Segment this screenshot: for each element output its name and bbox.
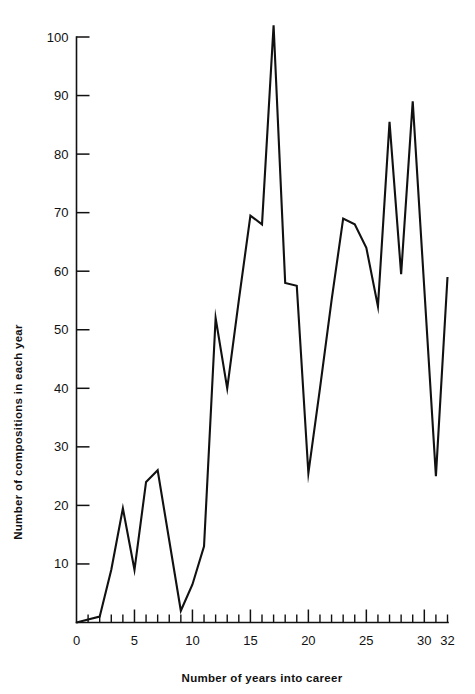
y-tick-label-20: 20 bbox=[54, 498, 68, 513]
axes bbox=[77, 37, 449, 623]
y-tick-label-30: 30 bbox=[54, 439, 68, 454]
x-tick-label-25: 25 bbox=[359, 633, 373, 648]
x-tick-label-5: 5 bbox=[131, 633, 138, 648]
x-tick-label-0: 0 bbox=[73, 633, 80, 648]
y-axis-ticks bbox=[77, 37, 90, 564]
x-axis-title: Number of years into career bbox=[182, 672, 343, 684]
y-tick-label-90: 90 bbox=[54, 88, 68, 103]
y-tick-label-40: 40 bbox=[54, 381, 68, 396]
y-tick-label-50: 50 bbox=[54, 322, 68, 337]
data-series-line bbox=[77, 25, 448, 622]
y-tick-label-10: 10 bbox=[54, 556, 68, 571]
x-tick-label-30: 30 bbox=[417, 633, 431, 648]
y-axis-tick-labels: 102030405060708090100 bbox=[47, 30, 69, 572]
chart-figure: 102030405060708090100 05101520253032 Num… bbox=[0, 0, 475, 694]
y-axis-title: Number of compositions in each year bbox=[12, 324, 24, 540]
y-tick-label-60: 60 bbox=[54, 264, 68, 279]
y-tick-label-80: 80 bbox=[54, 147, 68, 162]
x-tick-label-20: 20 bbox=[301, 633, 315, 648]
y-tick-label-100: 100 bbox=[47, 30, 69, 45]
x-axis-ticks bbox=[88, 610, 447, 623]
x-tick-label-15: 15 bbox=[243, 633, 257, 648]
y-tick-label-70: 70 bbox=[54, 205, 68, 220]
line-chart-canvas: 102030405060708090100 05101520253032 Num… bbox=[0, 0, 475, 694]
x-tick-label-10: 10 bbox=[185, 633, 199, 648]
x-axis-tick-labels: 05101520253032 bbox=[73, 633, 455, 648]
x-tick-label-32: 32 bbox=[440, 633, 454, 648]
